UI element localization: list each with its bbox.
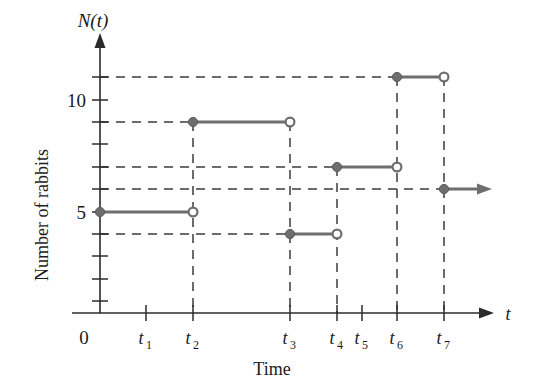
step-marker-open-1	[189, 208, 198, 217]
x-tick-label-t6-sub: 6	[397, 338, 403, 352]
step-marker-open-4	[393, 163, 402, 172]
x-tick-label-t7-sub: 7	[444, 338, 450, 352]
step-function-chart: 10 5 N(t) Number of rabbits 0 t 1 t 2 t …	[0, 0, 553, 384]
step-marker-closed-3	[285, 229, 294, 238]
y-tick-label-10: 10	[67, 90, 86, 111]
x-axis-title: Time	[253, 359, 290, 379]
step-marker-closed-2	[188, 117, 197, 126]
x-tick-label-t3-sub: 3	[290, 338, 296, 352]
x-tick-label-t4-sub: 4	[337, 338, 343, 352]
x-tick-label-t1-sub: 1	[146, 338, 152, 352]
step-marker-open-2	[286, 118, 295, 127]
x-tick-label-t2-sub: 2	[193, 338, 199, 352]
x-tick-label-t5-sub: 5	[362, 338, 368, 352]
step-marker-closed-5	[392, 72, 401, 81]
y-axis-title: Number of rabbits	[32, 149, 52, 281]
step-marker-closed-4	[332, 162, 341, 171]
step-marker-closed-6	[439, 184, 448, 193]
y-axis-symbol-label: N(t)	[77, 10, 109, 32]
step-marker-open-5	[440, 73, 449, 82]
y-tick-label-5: 5	[77, 202, 87, 223]
step-marker-closed-1	[95, 207, 104, 216]
step-marker-open-3	[333, 230, 342, 239]
origin-label: 0	[79, 327, 89, 348]
